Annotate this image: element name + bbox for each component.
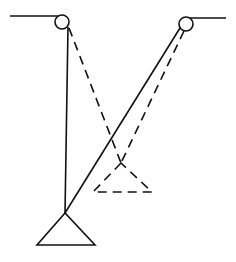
- right-pulley-icon: [179, 17, 193, 31]
- pulley-diagram: [0, 0, 236, 262]
- solid-rope-right: [65, 28, 180, 213]
- solid-rope-left: [65, 27, 68, 213]
- dashed-triangle-weight: [93, 163, 152, 192]
- solid-triangle-weight: [37, 213, 95, 245]
- dashed-rope-left: [69, 28, 121, 163]
- dashed-rope-right: [121, 31, 184, 163]
- left-pulley-icon: [55, 15, 69, 29]
